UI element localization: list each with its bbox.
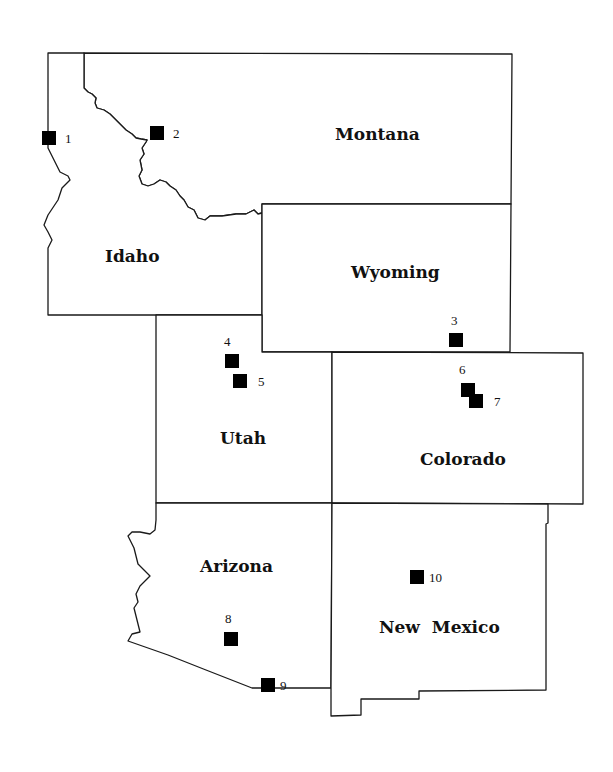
filled-square-icon <box>261 678 275 692</box>
state-label-utah: Utah <box>220 428 266 448</box>
state-colorado <box>332 352 583 504</box>
site-label-5: 5 <box>258 374 265 389</box>
site-label-6: 6 <box>459 362 466 377</box>
filled-square-icon <box>233 374 247 388</box>
site-label-8: 8 <box>225 611 232 626</box>
filled-square-icon <box>449 333 463 347</box>
state-label-montana: Montana <box>335 124 420 144</box>
site-label-9: 9 <box>280 678 287 693</box>
site-label-3: 3 <box>451 313 458 328</box>
state-new-mexico <box>331 503 548 716</box>
site-label-4: 4 <box>224 334 231 349</box>
state-label-idaho: Idaho <box>105 246 160 266</box>
filled-square-icon <box>224 632 238 646</box>
state-label-colorado: Colorado <box>420 449 506 469</box>
site-label-7: 7 <box>494 394 501 409</box>
state-label-arizona: Arizona <box>199 556 273 576</box>
state-map: Idaho Montana Wyoming Utah Colorado Ariz… <box>0 0 613 772</box>
site-label-2: 2 <box>173 126 180 141</box>
filled-square-icon <box>469 394 483 408</box>
state-arizona <box>128 503 332 688</box>
site-label-1: 1 <box>65 131 72 146</box>
filled-square-icon <box>42 131 56 145</box>
site-label-10: 10 <box>429 570 442 585</box>
state-label-new-mexico: New Mexico <box>379 617 500 637</box>
filled-square-icon <box>150 126 164 140</box>
filled-square-icon <box>410 570 424 584</box>
filled-square-icon <box>225 354 239 368</box>
state-label-wyoming: Wyoming <box>350 262 440 282</box>
